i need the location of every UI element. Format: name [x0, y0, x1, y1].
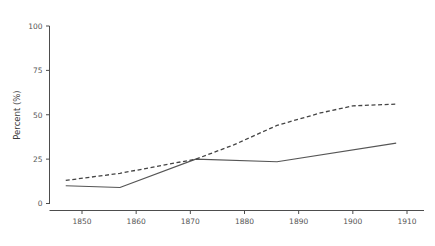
x-tick-label: 1900: [343, 217, 362, 226]
y-axis-title: Percent (%): [12, 90, 22, 139]
x-tick-label: 1850: [72, 217, 91, 226]
y-tick-label: 0: [38, 199, 43, 208]
y-tick-label: 75: [33, 66, 43, 75]
x-tick-label: 1860: [127, 217, 146, 226]
y-tick-label: 50: [33, 111, 43, 120]
y-tick-label: 100: [28, 22, 43, 31]
line-chart-plot: 0255075100 1850186018701880189019001910 …: [0, 0, 435, 246]
x-tick-label: 1880: [235, 217, 254, 226]
x-tick-label: 1910: [397, 217, 416, 226]
x-tick-label: 1870: [181, 217, 200, 226]
x-tick-label: 1890: [289, 217, 308, 226]
y-axis-ticks: 0255075100: [28, 22, 49, 209]
series-solid-series: [66, 143, 396, 187]
x-axis-ticks: 1850186018701880189019001910: [72, 211, 416, 227]
chart-figure: 0255075100 1850186018701880189019001910 …: [0, 0, 435, 246]
y-tick-label: 25: [33, 155, 43, 164]
series-dashed-series: [66, 104, 396, 180]
data-series-group: [66, 104, 396, 187]
